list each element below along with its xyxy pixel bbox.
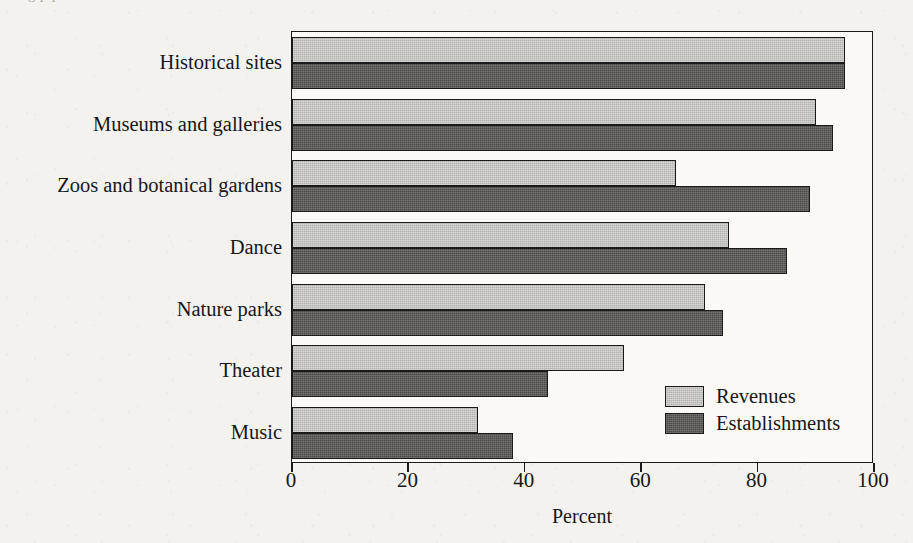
y-axis-label-nature-parks: Nature parks	[0, 299, 282, 320]
bar-revenues	[292, 222, 729, 248]
bar-group	[292, 160, 872, 212]
y-axis-label-dance: Dance	[0, 237, 282, 258]
bar-revenues	[292, 99, 816, 125]
bar-revenues	[292, 37, 845, 63]
bar-group	[292, 37, 872, 89]
bar-revenues	[292, 345, 624, 371]
x-axis-tick-labels: 020406080100	[291, 470, 873, 498]
x-tick-label-20: 20	[397, 470, 418, 491]
bar-establishments	[292, 186, 810, 212]
y-axis-label-zoos-and-botanical-gardens: Zoos and botanical gardens	[0, 175, 282, 196]
bar-group	[292, 222, 872, 274]
bar-establishments	[292, 310, 723, 336]
y-axis-label-theater: Theater	[0, 360, 282, 381]
y-axis-label-museums-and-galleries: Museums and galleries	[0, 114, 282, 135]
legend-item-revenues: Revenues	[665, 383, 865, 410]
legend-item-establishments: Establishments	[665, 410, 865, 437]
bar-group	[292, 284, 872, 336]
bar-establishments	[292, 125, 833, 151]
bar-revenues	[292, 407, 478, 433]
legend-label-establishments: Establishments	[716, 413, 840, 434]
y-axis-label-historical-sites: Historical sites	[0, 52, 282, 73]
bar-group	[292, 99, 872, 151]
x-tick-label-60: 60	[630, 470, 651, 491]
legend-swatch-revenues	[665, 386, 704, 407]
x-tick-label-0: 0	[286, 470, 297, 491]
cut-off-title: g p p	[0, 0, 913, 2]
legend-label-revenues: Revenues	[716, 386, 796, 407]
x-tick-label-80: 80	[746, 470, 767, 491]
y-axis-label-music: Music	[0, 422, 282, 443]
y-axis-category-labels: Historical sitesMuseums and galleriesZoo…	[0, 31, 282, 463]
bar-establishments	[292, 63, 845, 89]
bar-establishments	[292, 433, 513, 459]
x-tick-label-40: 40	[513, 470, 534, 491]
x-axis-title: Percent	[291, 505, 873, 528]
cut-off-title-text: g p p	[0, 0, 60, 2]
bar-revenues	[292, 284, 705, 310]
bar-establishments	[292, 371, 548, 397]
chart-figure: g p p Historical sitesMuseums and galler…	[0, 0, 913, 543]
legend-swatch-establishments	[665, 413, 704, 434]
bar-revenues	[292, 160, 676, 186]
x-tick-label-100: 100	[857, 470, 889, 491]
bar-establishments	[292, 248, 787, 274]
chart-legend: RevenuesEstablishments	[665, 383, 865, 437]
